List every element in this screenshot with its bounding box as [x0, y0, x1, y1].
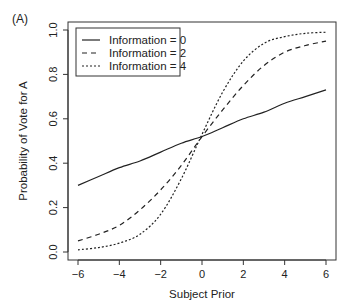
legend-label: Information = 4: [109, 60, 187, 72]
y-axis: 0.00.20.40.60.81.0: [47, 22, 68, 259]
x-tick-label: −2: [154, 268, 167, 280]
y-tick-label: 0.8: [47, 67, 59, 82]
x-axis-label: Subject Prior: [169, 288, 235, 300]
x-tick-label: 6: [323, 268, 329, 280]
y-tick-label: 1.0: [47, 22, 59, 37]
x-tick-label: 4: [282, 268, 288, 280]
x-tick-label: −4: [113, 268, 126, 280]
chart-svg: (A) −6−4−20246 0.00.20.40.60.81.0 Subjec…: [0, 0, 354, 308]
y-tick-label: 0.4: [47, 156, 59, 171]
y-axis-label: Probability of Vote for A: [17, 81, 29, 201]
legend: Information = 0 Information = 2 Informat…: [76, 28, 187, 76]
legend-label: Information = 2: [109, 47, 186, 59]
x-axis: −6−4−20246: [72, 260, 329, 280]
x-tick-label: −6: [72, 268, 85, 280]
panel-label: (A): [12, 12, 28, 26]
x-tick-label: 2: [240, 268, 246, 280]
legend-label: Information = 0: [109, 34, 186, 46]
series-line-solid: [78, 90, 326, 185]
y-tick-label: 0.0: [47, 244, 59, 259]
y-tick-label: 0.6: [47, 111, 59, 126]
y-tick-label: 0.2: [47, 200, 59, 215]
x-tick-label: 0: [199, 268, 205, 280]
